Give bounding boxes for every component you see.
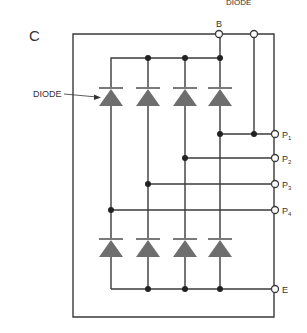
terminal-label-p3: P3 [282, 180, 292, 191]
bottom-diodes [99, 239, 232, 257]
top-bus-wire [111, 34, 220, 87]
terminal-label-p4: P4 [282, 206, 292, 217]
faint-top-label: DIODE [226, 0, 251, 7]
outer-loop-wire [73, 34, 274, 317]
terminal-e [272, 286, 279, 293]
terminal-p2 [272, 155, 279, 162]
terminal-p4 [272, 207, 279, 214]
callout-leader-line [64, 94, 97, 97]
terminal-p3 [272, 181, 279, 188]
terminal-b2 [251, 31, 258, 38]
terminal-label-b: B [216, 19, 222, 29]
diode-callout-label: DIODE [33, 89, 62, 99]
terminal-label-p1: P1 [282, 130, 292, 141]
top-diodes [99, 88, 232, 106]
terminal-label-p2: P2 [282, 154, 292, 165]
terminal-b [216, 31, 223, 38]
diode-array-schematic: DIODE C B [0, 0, 307, 333]
terminal-label-e: E [282, 285, 288, 295]
terminal-p1 [272, 131, 279, 138]
panel-label: C [29, 27, 40, 44]
